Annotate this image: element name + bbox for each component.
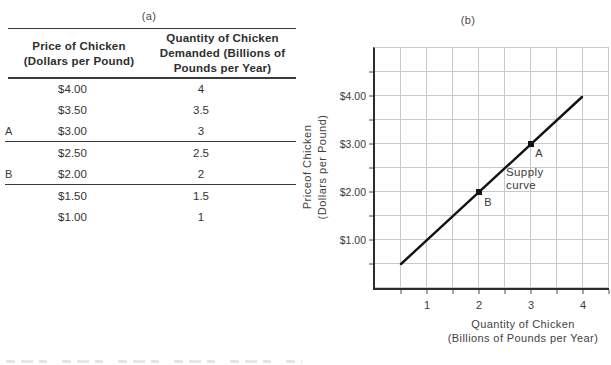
price-cell: $4.00 <box>30 83 115 95</box>
table-row: $2.50 2.5 <box>5 143 296 164</box>
y-tick-label-3: $3.00 <box>340 138 366 150</box>
y-tick-label-1: $1.00 <box>340 234 366 246</box>
quantity-cell: 3 <box>155 125 247 137</box>
table-row: $1.50 1.5 <box>5 186 296 207</box>
quantity-cell: 2 <box>155 168 247 180</box>
price-cell: $3.00 <box>30 125 115 137</box>
table-body: $4.00 4 $3.50 3.5 A $3.00 3 $2.50 2.5 B … <box>5 79 296 228</box>
column-header-price-line1: Price of Chicken <box>8 39 150 54</box>
panel-a-label: (a) <box>129 10 169 22</box>
quantity-cell: 4 <box>155 83 247 95</box>
table-row: $1.00 1 <box>5 207 296 228</box>
x-tick-label-1: 1 <box>424 299 430 311</box>
price-cell: $2.00 <box>30 168 115 180</box>
y-tick-label-2: $2.00 <box>340 186 366 198</box>
table-row-a: A $3.00 3 <box>5 121 296 142</box>
row-marker-a: A <box>5 125 21 137</box>
supply-curve-label-line1: Supply <box>506 166 544 178</box>
price-cell: $1.00 <box>30 211 115 223</box>
table-top-rule <box>8 28 296 29</box>
y-tick-label-4: $4.00 <box>340 90 366 102</box>
row-marker-b: B <box>5 168 21 180</box>
x-tick-label-3: 3 <box>528 299 534 311</box>
column-header-quantity: Quantity of Chicken Demanded (Billions o… <box>152 30 293 77</box>
y-axis-title-line1: Priceof Chicken <box>300 92 315 242</box>
point-a-label: A <box>535 147 543 159</box>
point-a-marker <box>528 141 534 147</box>
x-axis-title-line2: (Billions of Pounds per Year) <box>413 332 611 346</box>
quantity-cell: 3.5 <box>155 104 247 116</box>
x-tick-label-2: 2 <box>476 299 482 311</box>
x-tick-label-4: 4 <box>580 299 586 311</box>
x-axis-title-line1: Quantity of Chicken <box>413 318 611 332</box>
point-b-label: B <box>484 196 491 208</box>
table-row: $3.50 3.5 <box>5 100 296 121</box>
quantity-cell: 1.5 <box>155 190 247 202</box>
quantity-cell: 2.5 <box>155 147 247 159</box>
supply-curve-label-line2: curve <box>506 179 536 191</box>
table-header-row: Price of Chicken (Dollars per Pound) Qua… <box>0 30 300 77</box>
panel-b-label: (b) <box>448 14 488 26</box>
column-header-price: Price of Chicken (Dollars per Pound) <box>8 30 150 77</box>
plot-area: A B Supply curve $4.00 $3.00 $2.00 $1.00… <box>373 47 609 290</box>
cropped-caption-fragment <box>6 360 302 363</box>
column-header-quantity-line2: Demanded (Billions of <box>152 46 293 61</box>
y-axis-title-line2: (Dollars per Pound) <box>315 92 330 242</box>
table-row-b: B $2.00 2 <box>5 164 296 185</box>
price-cell: $2.50 <box>30 147 115 159</box>
x-axis-title: Quantity of Chicken (Billions of Pounds … <box>413 318 611 345</box>
quantity-cell: 1 <box>155 211 247 223</box>
price-cell: $3.50 <box>30 104 115 116</box>
column-header-price-line2: (Dollars per Pound) <box>8 54 150 69</box>
table-row: $4.00 4 <box>5 79 296 100</box>
figure: (a) Price of Chicken (Dollars per Pound)… <box>0 0 611 365</box>
supply-chart-svg: A B Supply curve $4.00 $3.00 $2.00 $1.00… <box>375 48 609 288</box>
point-b-marker <box>476 189 482 195</box>
price-cell: $1.50 <box>30 190 115 202</box>
supply-curve-line <box>401 97 582 264</box>
y-axis-title: Priceof Chicken (Dollars per Pound) <box>300 92 330 242</box>
column-header-quantity-line1: Quantity of Chicken <box>152 31 293 46</box>
column-header-quantity-line3: Pounds per Year) <box>152 61 293 76</box>
